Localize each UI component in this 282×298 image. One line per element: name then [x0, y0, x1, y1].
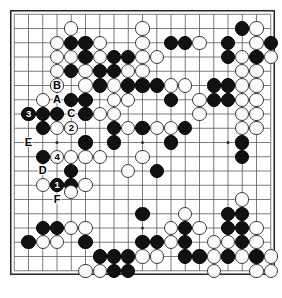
black-stone[interactable]	[50, 107, 64, 121]
black-stone[interactable]	[50, 221, 64, 235]
black-stone[interactable]	[36, 107, 50, 121]
white-stone[interactable]	[178, 207, 192, 221]
black-stone[interactable]	[221, 93, 235, 107]
black-stone[interactable]	[36, 221, 50, 235]
black-stone[interactable]	[264, 36, 278, 50]
black-stone[interactable]	[121, 78, 135, 92]
black-stone[interactable]	[64, 36, 78, 50]
move-stone-4[interactable]: 4	[50, 150, 64, 164]
white-stone[interactable]	[78, 150, 92, 164]
white-stone[interactable]	[249, 93, 263, 107]
white-stone[interactable]	[135, 150, 149, 164]
black-stone[interactable]	[164, 93, 178, 107]
black-stone[interactable]	[107, 50, 121, 64]
black-stone[interactable]	[93, 64, 107, 78]
white-stone[interactable]	[78, 221, 92, 235]
white-stone[interactable]	[78, 64, 92, 78]
white-stone[interactable]	[249, 36, 263, 50]
white-stone[interactable]	[64, 21, 78, 35]
white-stone[interactable]	[107, 107, 121, 121]
white-stone[interactable]	[164, 221, 178, 235]
white-stone[interactable]	[249, 121, 263, 135]
white-stone[interactable]	[121, 93, 135, 107]
white-stone[interactable]	[78, 78, 92, 92]
white-stone[interactable]	[264, 249, 278, 263]
black-stone[interactable]	[221, 50, 235, 64]
white-stone[interactable]	[107, 93, 121, 107]
white-stone[interactable]	[264, 50, 278, 64]
black-stone[interactable]	[135, 121, 149, 135]
white-stone[interactable]	[78, 264, 92, 278]
black-stone[interactable]	[78, 50, 92, 64]
black-stone[interactable]	[192, 249, 206, 263]
black-stone[interactable]	[78, 107, 92, 121]
black-stone[interactable]	[135, 207, 149, 221]
white-stone[interactable]	[135, 249, 149, 263]
black-stone[interactable]	[78, 135, 92, 149]
black-stone[interactable]	[221, 249, 235, 263]
white-stone[interactable]	[249, 64, 263, 78]
black-stone[interactable]	[107, 135, 121, 149]
black-stone[interactable]	[221, 36, 235, 50]
black-stone[interactable]	[164, 36, 178, 50]
white-stone[interactable]	[107, 78, 121, 92]
white-stone[interactable]	[249, 264, 263, 278]
white-stone[interactable]	[50, 36, 64, 50]
white-stone[interactable]	[135, 36, 149, 50]
black-stone[interactable]	[221, 78, 235, 92]
white-stone[interactable]	[150, 50, 164, 64]
white-stone[interactable]	[93, 36, 107, 50]
white-stone[interactable]	[93, 150, 107, 164]
move-stone-3[interactable]: 3	[21, 107, 35, 121]
black-stone[interactable]	[36, 121, 50, 135]
white-stone[interactable]	[135, 64, 149, 78]
black-stone[interactable]	[21, 235, 35, 249]
white-stone[interactable]	[36, 235, 50, 249]
black-stone[interactable]	[207, 93, 221, 107]
black-stone[interactable]	[135, 235, 149, 249]
black-stone[interactable]	[107, 264, 121, 278]
black-stone[interactable]	[235, 207, 249, 221]
white-stone[interactable]	[93, 107, 107, 121]
black-stone[interactable]	[235, 21, 249, 35]
black-stone[interactable]	[178, 36, 192, 50]
white-stone[interactable]	[135, 21, 149, 35]
black-stone[interactable]	[93, 78, 107, 92]
black-stone[interactable]	[150, 235, 164, 249]
black-stone[interactable]	[164, 135, 178, 149]
white-stone[interactable]	[36, 93, 50, 107]
white-stone[interactable]	[249, 235, 263, 249]
white-stone[interactable]	[249, 221, 263, 235]
black-stone[interactable]	[121, 249, 135, 263]
white-stone[interactable]	[249, 21, 263, 35]
black-stone[interactable]	[221, 207, 235, 221]
white-stone[interactable]	[192, 36, 206, 50]
black-stone[interactable]	[150, 164, 164, 178]
black-stone[interactable]	[249, 249, 263, 263]
black-stone[interactable]	[64, 93, 78, 107]
black-stone[interactable]	[135, 78, 149, 92]
black-stone[interactable]	[235, 150, 249, 164]
black-stone[interactable]	[235, 135, 249, 149]
white-stone[interactable]	[150, 249, 164, 263]
black-stone[interactable]	[150, 78, 164, 92]
white-stone[interactable]	[164, 78, 178, 92]
white-stone[interactable]	[36, 178, 50, 192]
white-stone[interactable]	[235, 78, 249, 92]
white-stone[interactable]	[235, 249, 249, 263]
white-stone[interactable]	[93, 264, 107, 278]
white-stone[interactable]	[249, 107, 263, 121]
black-stone[interactable]	[78, 93, 92, 107]
white-stone[interactable]	[207, 264, 221, 278]
black-stone[interactable]	[93, 249, 107, 263]
white-stone[interactable]	[50, 50, 64, 64]
white-stone[interactable]	[150, 121, 164, 135]
white-stone[interactable]	[93, 50, 107, 64]
white-stone[interactable]	[192, 221, 206, 235]
black-stone[interactable]	[221, 221, 235, 235]
white-stone[interactable]	[207, 249, 221, 263]
white-stone[interactable]	[235, 93, 249, 107]
white-stone[interactable]	[178, 78, 192, 92]
black-stone[interactable]	[78, 36, 92, 50]
white-stone[interactable]	[64, 150, 78, 164]
